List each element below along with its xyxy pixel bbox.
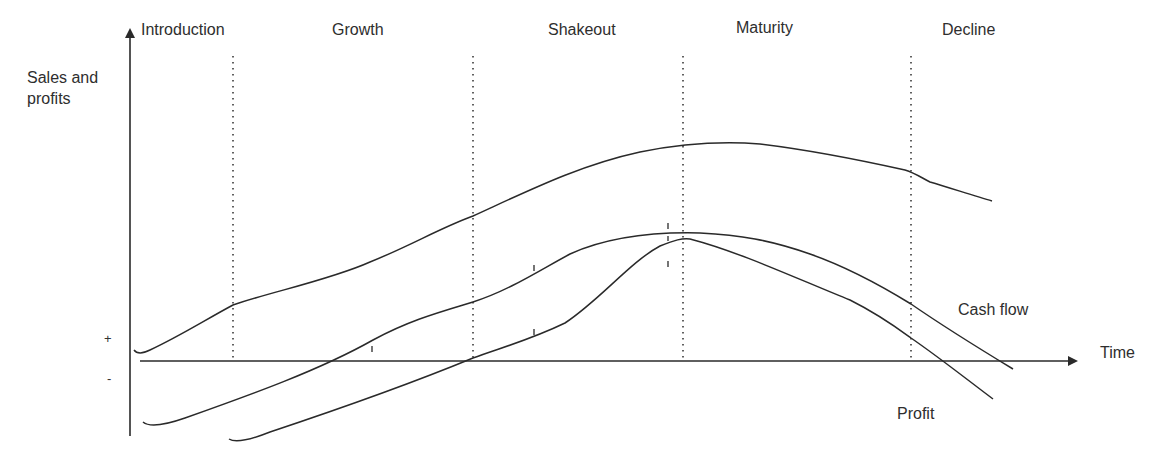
y-axis-label: Sales and profits <box>27 67 98 109</box>
stage-label-introduction: Introduction <box>141 21 225 39</box>
profit-curve <box>229 239 993 441</box>
stage-label-shakeout: Shakeout <box>548 21 616 39</box>
stage-label-growth: Growth <box>332 21 384 39</box>
stage-label-maturity: Maturity <box>736 19 793 37</box>
positive-sign: + <box>104 331 112 346</box>
stage-dividers <box>233 56 911 360</box>
life-cycle-diagram <box>0 0 1165 458</box>
y-axis-label-line2: profits <box>27 88 98 109</box>
stage-label-decline: Decline <box>942 21 995 39</box>
cash-flow-label: Cash flow <box>958 301 1028 319</box>
cash-flow-curve <box>143 233 1013 425</box>
negative-sign: - <box>107 371 111 386</box>
sales-curve <box>134 143 992 353</box>
curve-tick-marks <box>372 223 668 352</box>
x-axis-label: Time <box>1100 344 1135 362</box>
y-axis-label-line1: Sales and <box>27 67 98 88</box>
profit-label: Profit <box>897 405 934 423</box>
